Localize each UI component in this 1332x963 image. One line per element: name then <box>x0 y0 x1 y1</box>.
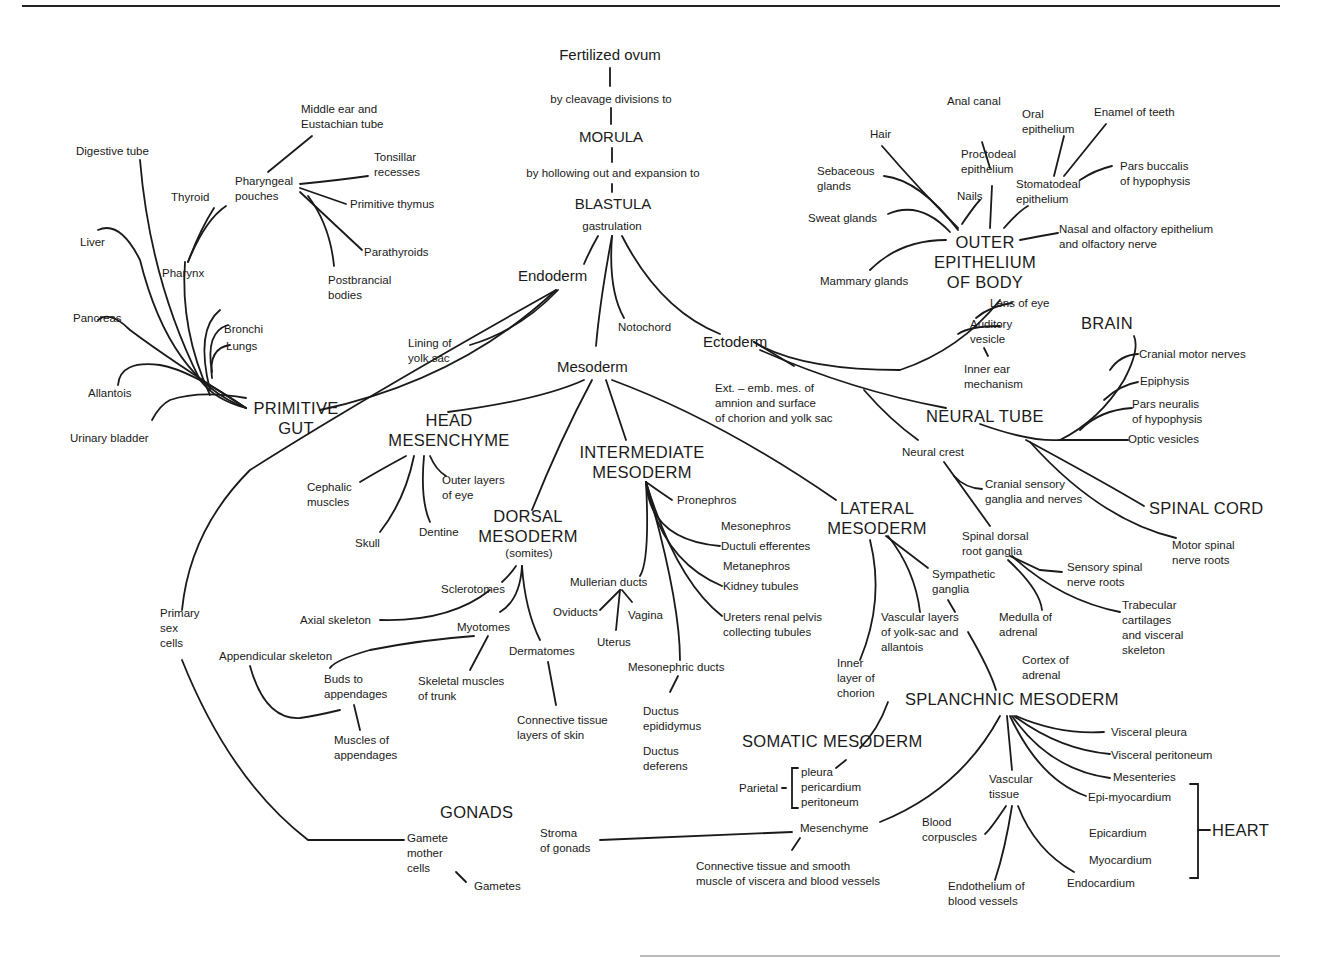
oviducts-label: Oviducts <box>553 605 598 620</box>
mesonephric-ducts-label: Mesonephric ducts <box>628 660 725 675</box>
thyroid-label: Thyroid <box>171 190 209 205</box>
intermediate-mesoderm-label: INTERMEDIATE MESODERM <box>572 442 712 482</box>
dorsal-mesoderm-label: DORSAL MESODERM <box>476 506 580 546</box>
cleavage-step-label: by cleavage divisions to <box>540 92 682 107</box>
sebaceous-label: Sebaceous glands <box>817 164 875 194</box>
endoderm-label: Endoderm <box>518 267 587 285</box>
dermatomes-label: Dermatomes <box>509 644 575 659</box>
anal-canal-label: Anal canal <box>947 94 1001 109</box>
visceral-peritoneum-label: Visceral peritoneum <box>1111 748 1212 763</box>
blood-corpuscles-label: Blood corpuscles <box>922 815 977 845</box>
muscles-appendages-label: Muscles of appendages <box>334 733 397 763</box>
appendicular-skeleton-label: Appendicular skeleton <box>219 649 332 664</box>
spinal-dorsal-ganglia-label: Spinal dorsal root ganglia <box>962 529 1028 559</box>
mesoderm-label: Mesoderm <box>557 358 628 376</box>
motor-spinal-roots-label: Motor spinal nerve roots <box>1172 538 1235 568</box>
hair-label: Hair <box>870 127 891 142</box>
parathyroids-label: Parathyroids <box>364 245 429 260</box>
myotomes-label: Myotomes <box>457 620 510 635</box>
stroma-gonads-label: Stroma of gonads <box>540 826 591 856</box>
sympathetic-ganglia-label: Sympathetic ganglia <box>932 567 995 597</box>
gonads-label: GONADS <box>440 802 513 822</box>
gametes-label: Gametes <box>474 879 521 894</box>
lining-yolk-sac-label: Lining of yolk sac <box>408 336 451 366</box>
lungs-label: Lungs <box>226 339 257 354</box>
mammary-glands-label: Mammary glands <box>820 274 908 289</box>
visceral-pleura-label: Visceral pleura <box>1111 725 1187 740</box>
head-mesenchyme-label: HEAD MESENCHYME <box>384 410 514 450</box>
lens-of-eye-label: Lens of eye <box>990 296 1049 311</box>
inner-ear-label: Inner ear mechanism <box>964 362 1023 392</box>
cranial-sensory-label: Cranial sensory ganglia and nerves <box>985 477 1082 507</box>
allantois-label: Allantois <box>88 386 131 401</box>
vascular-layers-label: Vascular layers of yolk-sac and allantoi… <box>881 610 959 655</box>
somatic-mesoderm-label: SOMATIC MESODERM <box>742 731 923 751</box>
germ-layer-diagram: Fertilized ovum by cleavage divisions to… <box>0 0 1332 963</box>
primitive-gut-label: PRIMITIVE GUT <box>248 398 344 438</box>
cephalic-muscles-label: Cephalic muscles <box>307 480 352 510</box>
tonsillar-recesses-label: Tonsillar recesses <box>374 150 420 180</box>
gastrulation-label: gastrulation <box>560 219 664 234</box>
pharyngeal-pouches-label: Pharyngeal pouches <box>235 174 293 204</box>
connective-smooth-label: Connective tissue and smooth muscle of v… <box>696 859 880 889</box>
ductus-epididymus-label: Ductus epididymus <box>643 704 701 734</box>
parietal-items-label: pleura pericardium peritoneum <box>801 765 861 810</box>
nasal-olfactory-label: Nasal and olfactory epithelium and olfac… <box>1059 222 1213 252</box>
ectoderm-label: Ectoderm <box>703 333 767 351</box>
dentine-label: Dentine <box>419 525 459 540</box>
ductus-deferens-label: Ductus deferens <box>643 744 688 774</box>
inner-layer-chorion-label: Inner layer of chorion <box>837 656 875 701</box>
sclerotomes-label: Sclerotomes <box>441 582 505 597</box>
splanchnic-mesoderm-label: SPLANCHNIC MESODERM <box>905 689 1119 709</box>
sensory-spinal-roots-label: Sensory spinal nerve roots <box>1067 560 1142 590</box>
neural-tube-label: NEURAL TUBE <box>926 406 1044 426</box>
vascular-tissue-label: Vascular tissue <box>989 772 1033 802</box>
notochord-label: Notochord <box>618 320 671 335</box>
epiphysis-label: Epiphysis <box>1140 374 1189 389</box>
ductuli-efferentes-label: Ductuli efferentes <box>721 539 810 554</box>
vagina-label: Vagina <box>628 608 663 623</box>
ureters-label: Ureters renal pelvis collecting tubules <box>723 610 822 640</box>
enamel-label: Enamel of teeth <box>1094 105 1175 120</box>
bronchi-label: Bronchi <box>224 322 263 337</box>
primitive-thymus-label: Primitive thymus <box>350 197 434 212</box>
endocardium-label: Endocardium <box>1067 876 1135 891</box>
hollowing-step-label: by hollowing out and expansion to <box>510 166 716 181</box>
fertilized-ovum-label: Fertilized ovum <box>548 46 672 64</box>
lateral-mesoderm-label: LATERAL MESODERM <box>822 498 932 538</box>
outer-layers-eye-label: Outer layers of eye <box>442 473 505 503</box>
urinary-bladder-label: Urinary bladder <box>70 431 149 446</box>
mullerian-ducts-label: Mullerian ducts <box>570 575 647 590</box>
endothelium-label: Endothelium of blood vessels <box>948 879 1025 909</box>
gamete-mother-cells-label: Gamete mother cells <box>407 831 448 876</box>
pronephros-label: Pronephros <box>677 493 736 508</box>
optic-vesicles-label: Optic vesicles <box>1128 432 1199 447</box>
mesenchyme-label: Mesenchyme <box>800 821 868 836</box>
middle-ear-label: Middle ear and Eustachian tube <box>301 102 383 132</box>
stomatodeal-label: Stomatodeal epithelium <box>1016 177 1081 207</box>
epi-myocardium-label: Epi-myocardium <box>1088 790 1171 805</box>
connective-skin-label: Connective tissue layers of skin <box>517 713 608 743</box>
kidney-tubules-label: Kidney tubules <box>723 579 798 594</box>
somites-label: (somites) <box>494 546 564 561</box>
mesenteries-label: Mesenteries <box>1113 770 1176 785</box>
pharynx-label: Pharynx <box>162 266 204 281</box>
sweat-glands-label: Sweat glands <box>808 211 877 226</box>
brain-label: BRAIN <box>1081 313 1133 333</box>
buds-appendages-label: Buds to appendages <box>324 672 387 702</box>
outer-epithelium-label: OUTER EPITHELIUM OF BODY <box>930 232 1040 292</box>
morula-label: MORULA <box>566 128 656 146</box>
digestive-tube-label: Digestive tube <box>76 144 149 159</box>
blastula-label: BLASTULA <box>560 195 666 213</box>
trabecular-label: Trabecular cartilages and visceral skele… <box>1122 598 1183 658</box>
cortex-adrenal-label: Cortex of adrenal <box>1022 653 1069 683</box>
mesonephros-label: Mesonephros <box>721 519 791 534</box>
primary-sex-cells-label: Primary sex cells <box>160 606 200 651</box>
uterus-label: Uterus <box>597 635 631 650</box>
ext-emb-mes-label: Ext. – emb. mes. of amnion and surface o… <box>715 381 833 426</box>
skull-label: Skull <box>355 536 380 551</box>
proctodeal-label: Proctodeal epithelium <box>961 147 1016 177</box>
neural-crest-label: Neural crest <box>902 445 964 460</box>
pars-buccalis-label: Pars buccalis of hypophysis <box>1120 159 1190 189</box>
nails-label: Nails <box>957 189 983 204</box>
